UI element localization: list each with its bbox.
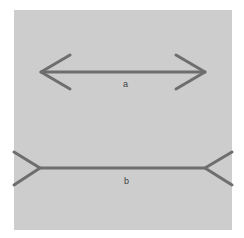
label-b: b <box>124 176 129 186</box>
line-b <box>14 152 232 185</box>
label-a: a <box>123 79 128 89</box>
illusion-figure <box>0 0 244 238</box>
